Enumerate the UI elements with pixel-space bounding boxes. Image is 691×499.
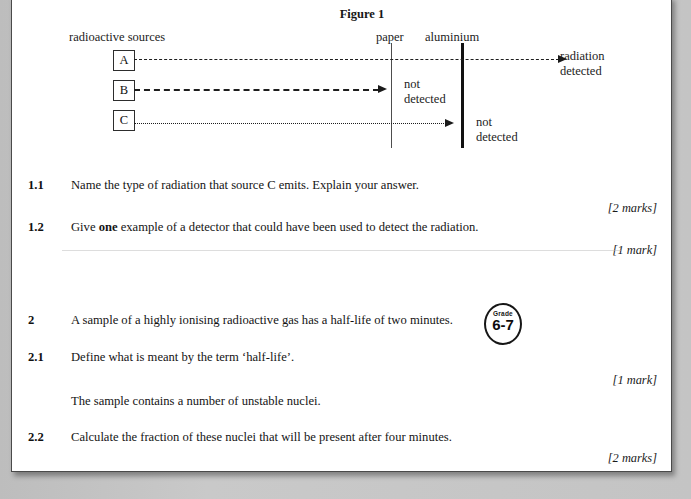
outcome-c-line2: detected	[476, 130, 518, 144]
outcome-c-line1: not	[476, 115, 492, 129]
question-text-1-1: Name the type of radiation that source C…	[71, 177, 611, 193]
outcome-b-line1: not	[404, 77, 420, 91]
marks-2-2: [2 marks]	[608, 451, 657, 466]
ray-arrowhead-c	[445, 119, 454, 127]
outcome-label-b: not detected	[404, 77, 446, 107]
paper-label: paper	[376, 30, 404, 44]
marks-2-1: [1 mark]	[613, 373, 657, 388]
question-text-1-2: Give one example of a detector that coul…	[71, 219, 611, 235]
ray-arrowhead-b	[378, 85, 387, 93]
marks-1-1: [2 marks]	[608, 201, 657, 216]
page-rule-1	[62, 250, 622, 251]
question-text-2: A sample of a highly ionising radioactiv…	[71, 312, 611, 328]
question-1-2-part1: Give	[71, 220, 99, 234]
aluminium-label: aluminium	[425, 30, 479, 44]
question-text-2-2: Calculate the fraction of these nuclei t…	[71, 429, 611, 445]
figure-title: Figure 1	[302, 7, 422, 22]
source-box-b: B	[113, 80, 135, 101]
question-number-2-2: 2.2	[28, 429, 64, 445]
outcome-a-line2: detected	[560, 64, 602, 78]
question-number-2-1: 2.1	[28, 349, 64, 365]
radioactive-sources-label: radioactive sources	[69, 30, 165, 44]
grade-badge: Grade 6-7	[484, 303, 522, 345]
source-box-c: C	[113, 110, 135, 131]
ray-line-b	[134, 89, 379, 91]
outcome-label-c: not detected	[476, 115, 518, 145]
ray-line-c	[134, 123, 446, 124]
ray-line-a	[134, 59, 559, 60]
question-1-2-emphasis: one	[99, 220, 118, 234]
question-number-1-2: 1.2	[28, 219, 64, 235]
question-1-2-part2: example of a detector that could have be…	[118, 220, 479, 234]
outcome-a-line1: radiation	[560, 49, 604, 63]
question-number-2: 2	[28, 312, 64, 328]
grade-badge-value: 6-7	[486, 317, 520, 333]
outcome-label-a: radiation detected	[560, 49, 604, 79]
source-box-a: A	[113, 50, 135, 71]
question-number-1-1: 1.1	[28, 177, 64, 193]
exam-page: Figure 1 radioactive sources paper alumi…	[11, 0, 672, 472]
statement-text: The sample contains a number of unstable…	[71, 393, 611, 409]
figure-1: Figure 1 radioactive sources paper alumi…	[12, 0, 671, 157]
question-text-2-1: Define what is meant by the term ‘half-l…	[71, 349, 611, 365]
outcome-b-line2: detected	[404, 92, 446, 106]
